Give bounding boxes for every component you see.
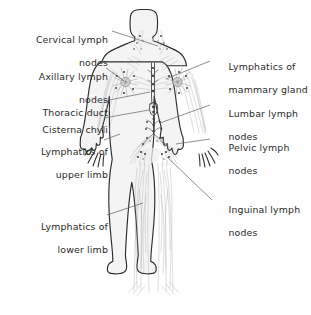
torso-limbs-outline <box>80 62 183 274</box>
head-outline <box>101 9 186 65</box>
lymphatic-system-figure: Cervical lymph nodes Axillary lymph node… <box>0 0 311 315</box>
neck-shading <box>142 39 154 46</box>
hand-lymphatics-right <box>199 148 218 167</box>
leader-inguinal <box>167 157 212 200</box>
lower-limb-lymphatics-right <box>158 163 173 292</box>
upper-limb-lymphatics-right <box>181 70 206 133</box>
anatomy-illustration <box>0 0 311 315</box>
pelvis-shading <box>142 148 159 164</box>
hand-lymphatics-left <box>85 148 104 167</box>
